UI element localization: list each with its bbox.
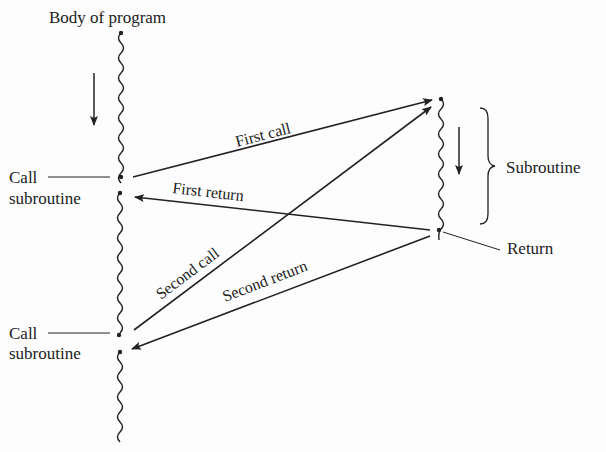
second-call-label: Second call [153,244,223,303]
first-return-arrow [135,197,430,230]
subroutine-label: Subroutine [506,158,581,177]
second-call-arrow [134,107,431,330]
subroutine-body-line [439,99,444,240]
call-1-label: Call [9,168,38,187]
call-1-subroutine-label: subroutine [9,189,81,208]
call-2-subroutine-label: subroutine [9,344,81,363]
first-call-arrow [133,100,432,177]
return-leader [443,232,500,250]
second-return-arrow [132,236,430,349]
body-of-program-label: Body of program [49,8,166,27]
first-return-label: First return [172,179,245,204]
program-body-line [118,33,124,442]
subroutine-call-diagram: Body of program Call subroutine Call sub… [0,0,606,452]
second-return-label: Second return [220,257,309,305]
return-label: Return [507,239,554,258]
right-curly-brace-icon [480,108,495,224]
first-call-label: First call [233,119,292,150]
call-2-label: Call [9,324,38,343]
